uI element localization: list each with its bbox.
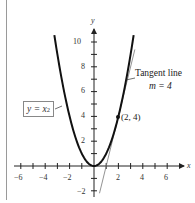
x-tick-label: −2 [63, 174, 72, 182]
equation-base: y = x [27, 104, 47, 114]
x-tick-label: 4 [140, 174, 144, 182]
y-tick-label: 4 [81, 112, 85, 120]
y-tick-label: −2 [77, 188, 86, 196]
y-tick-label: 2 [81, 137, 85, 145]
eq-leader-line [55, 106, 62, 109]
x-tick-label: 2 [116, 174, 120, 182]
x-axis-label: x [187, 162, 191, 170]
equation-exponent: 2 [47, 106, 50, 113]
y-tick-label: 10 [73, 38, 81, 46]
y-axis-label: y [91, 17, 95, 25]
y-tick-label: 6 [81, 87, 85, 95]
tangent-slope: m = 4 [149, 82, 172, 92]
y-tick-label: 8 [81, 63, 85, 71]
x-tick-label: −6 [14, 174, 23, 182]
tangent-title: Tangent line [135, 69, 182, 79]
chart-figure: y x −6 −4 −2 2 4 6 10 8 6 4 2 −2 (2, 4) … [0, 0, 195, 203]
point-label: (2, 4) [121, 113, 141, 122]
equation-box: y = x2 [23, 101, 54, 117]
x-tick-label: 6 [164, 174, 168, 182]
tangent-point [116, 115, 120, 119]
x-tick-label: −4 [39, 174, 48, 182]
